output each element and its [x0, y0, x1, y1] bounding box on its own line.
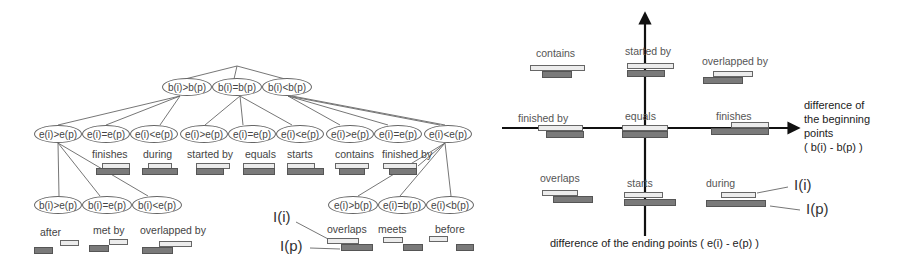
interval-p-met-by: [89, 245, 109, 252]
plane-interval-p-contains: [542, 71, 572, 78]
label-finished-by: finished by: [382, 148, 432, 160]
node-e-less-1: e(i)<e(p): [130, 125, 178, 143]
interval-i-after: [60, 240, 79, 246]
interval-p-overlaps: [341, 244, 373, 251]
interval-p-equals: [243, 168, 275, 175]
legend-interval-p-right: I(p): [806, 200, 829, 217]
interval-i-before: [429, 236, 448, 242]
node-e-less-3: e(i)<e(p): [424, 125, 472, 143]
legend-interval-i-right: I(i): [794, 176, 812, 193]
diagram-canvas: b(i)>b(p) b(i)=b(p) b(i)<b(p) e(i)>e(p) …: [0, 0, 903, 272]
plane-label-starts: starts: [627, 177, 653, 189]
interval-i-met-by: [109, 239, 128, 245]
plane-interval-p-started-by: [627, 70, 665, 77]
plane-interval-i-starts: [624, 192, 663, 198]
interval-p-starts: [287, 168, 324, 175]
node-e-equal-2: e(i)=e(p): [228, 125, 276, 143]
plane-interval-p-finishes: [711, 128, 769, 135]
label-after: after: [40, 226, 61, 238]
plane-interval-p-starts: [624, 199, 676, 206]
node-b-after: b(i)>e(p): [34, 196, 82, 214]
node-e-equal-1: e(i)=e(p): [82, 125, 130, 143]
x-axis-label-line-1: difference of: [804, 98, 870, 112]
label-started-by: started by: [187, 148, 233, 160]
legend-interval-i-left: I(i): [273, 208, 291, 225]
interval-p-started-by: [196, 168, 224, 175]
interval-p-finished-by: [389, 168, 417, 175]
x-axis-label-line-3: points: [804, 126, 870, 140]
legend-interval-p-left: I(p): [280, 237, 303, 254]
plane-label-overlapped-by: overlapped by: [702, 55, 768, 67]
interval-p-during: [142, 168, 178, 175]
x-axis-label: difference of the beginning points ( b(i…: [804, 98, 870, 154]
plane-interval-p-overlaps: [553, 196, 593, 203]
label-starts: starts: [287, 148, 313, 160]
node-e-greater-3: e(i)>e(p): [326, 125, 374, 143]
node-b-overlapped-by: b(i)<e(p): [132, 196, 182, 214]
interval-p-finishes: [96, 168, 130, 175]
plane-label-equals: equals: [625, 110, 656, 122]
plane-label-finishes: finishes: [716, 110, 752, 122]
interval-p-meets: [403, 244, 423, 251]
plane-interval-p-overlapped-by: [703, 77, 743, 84]
interval-p-before: [456, 244, 474, 251]
plane-label-contains: contains: [536, 47, 575, 59]
plane-interval-i-started-by: [627, 63, 674, 69]
y-axis-label: difference of the ending points ( e(i) -…: [550, 236, 759, 250]
label-during: during: [143, 148, 172, 160]
plane-interval-p-during: [706, 200, 766, 207]
plane-interval-i-during: [721, 192, 756, 198]
plane-interval-p-equals: [622, 131, 668, 138]
label-finishes: finishes: [92, 148, 128, 160]
node-e-equal-3: e(i)=e(p): [374, 125, 422, 143]
label-meets: meets: [378, 223, 407, 235]
node-e-greater-2: e(i)>e(p): [180, 125, 228, 143]
x-axis-label-line-4: ( b(i) - b(p) ): [804, 140, 870, 154]
plane-label-finished-by: finished by: [518, 112, 568, 124]
node-b-greater: b(i)>b(p): [162, 78, 212, 96]
label-before: before: [435, 223, 465, 235]
interval-p-after: [34, 247, 53, 254]
node-b-met-by: b(i)=e(p): [82, 196, 132, 214]
node-e-greater-1: e(i)>e(p): [34, 125, 82, 143]
node-e-before: e(i)<b(p): [426, 196, 474, 214]
plane-label-during: during: [706, 177, 735, 189]
node-e-overlaps: e(i)>b(p): [328, 196, 378, 214]
node-e-meets: e(i)=b(p): [378, 196, 426, 214]
label-met-by: met by: [93, 224, 125, 236]
label-overlapped-by: overlapped by: [140, 224, 206, 236]
interval-p-contains: [339, 168, 365, 175]
node-b-equal: b(i)=b(p): [212, 78, 262, 96]
node-e-less-2: e(i)<e(p): [276, 125, 324, 143]
label-contains: contains: [335, 148, 374, 160]
interval-i-meets: [383, 237, 403, 243]
x-axis-label-line-2: the beginning: [804, 112, 870, 126]
node-b-less: b(i)<b(p): [262, 78, 312, 96]
interval-p-overlapped-by: [142, 247, 173, 254]
plane-label-overlaps: overlaps: [540, 172, 580, 184]
label-overlaps: overlaps: [327, 223, 367, 235]
plane-interval-p-finished-by: [546, 131, 584, 138]
plane-label-started-by: started by: [625, 45, 671, 57]
label-equals: equals: [245, 148, 276, 160]
